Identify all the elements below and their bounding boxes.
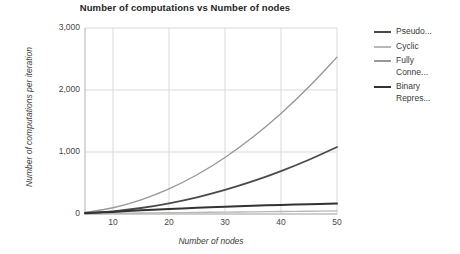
legend-color-swatch — [374, 60, 391, 62]
legend-item[interactable]: Pseudo... — [374, 26, 460, 38]
legend-color-swatch — [374, 86, 391, 88]
legend-label: Cyclic — [396, 41, 419, 53]
legend-label: Fully Conne... — [396, 55, 428, 78]
legend-item[interactable]: Fully Conne... — [374, 55, 460, 78]
chart-legend: Pseudo...CyclicFully Conne...Binary Repr… — [374, 26, 460, 107]
legend-color-swatch — [374, 46, 391, 48]
legend-item[interactable]: Cyclic — [374, 41, 460, 53]
legend-label: Binary Repres... — [396, 81, 431, 104]
legend-color-swatch — [374, 31, 391, 33]
legend-label: Pseudo... — [396, 26, 432, 38]
chart-container: Number of computations vs Number of node… — [0, 0, 460, 254]
legend-item[interactable]: Binary Repres... — [374, 81, 460, 104]
plot-background — [85, 28, 337, 214]
